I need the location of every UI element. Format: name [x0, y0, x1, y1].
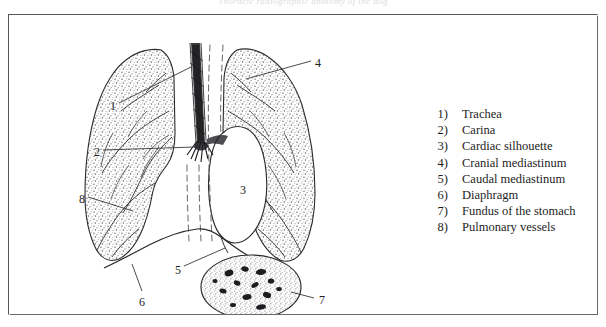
legend-number: 6)	[424, 188, 448, 203]
legend-item-1: 1) Trachea	[424, 107, 594, 123]
legend-label: Fundus of the stomach	[462, 204, 576, 219]
legend-item-6: 6) Diaphragm	[424, 188, 594, 204]
callout-5: 5	[175, 264, 181, 276]
legend-item-2: 2) Carina	[424, 123, 594, 139]
callout-6: 6	[139, 296, 145, 308]
leader-line-6	[132, 264, 142, 291]
callout-3: 3	[240, 184, 246, 196]
callout-1: 1	[110, 100, 116, 112]
fundus-of-stomach	[201, 255, 301, 314]
legend-label: Trachea	[462, 107, 502, 122]
legend-list: 1) Trachea 2) Carina 3) Cardiac silhouet…	[424, 107, 594, 237]
callout-2: 2	[94, 146, 100, 158]
legend-item-3: 3) Cardiac silhouette	[424, 139, 594, 155]
legend-item-5: 5) Caudal mediastinum	[424, 172, 594, 188]
legend-label: Carina	[462, 123, 495, 138]
figure-box: 1 2 3 4 5 6 7 8 1) Trachea 2) Carina 3) …	[8, 14, 598, 315]
legend-label: Caudal mediastinum	[462, 172, 565, 187]
legend-number: 8)	[424, 220, 448, 235]
callout-7: 7	[319, 294, 325, 306]
legend-number: 1)	[424, 107, 448, 122]
thorax-illustration: 1 2 3 4 5 6 7 8	[9, 15, 389, 314]
legend-label: Cardiac silhouette	[462, 139, 553, 154]
legend-label: Pulmonary vessels	[462, 220, 555, 235]
thorax-svg	[9, 15, 389, 314]
legend-number: 5)	[424, 172, 448, 187]
callout-8: 8	[79, 193, 85, 205]
callout-4: 4	[315, 57, 321, 69]
legend-item-8: 8) Pulmonary vessels	[424, 220, 594, 236]
legend-number: 2)	[424, 123, 448, 138]
legend-number: 3)	[424, 139, 448, 154]
cardiac-silhouette	[209, 127, 267, 243]
legend-number: 7)	[424, 204, 448, 219]
legend-label: Cranial mediastinum	[462, 156, 567, 171]
trachea	[190, 43, 206, 143]
legend-label: Diaphragm	[462, 188, 518, 203]
legend-number: 4)	[424, 156, 448, 171]
legend-item-4: 4) Cranial mediastinum	[424, 156, 594, 172]
legend-item-7: 7) Fundus of the stomach	[424, 204, 594, 220]
running-header: Thoracic radiographic anatomy of the dog	[0, 0, 606, 6]
